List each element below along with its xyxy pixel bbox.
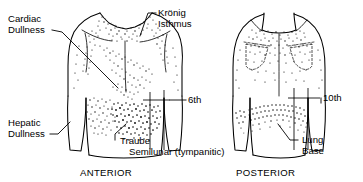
posterior-left-arm bbox=[233, 96, 250, 151]
label-lung-base-line-2: Base bbox=[302, 145, 324, 156]
leader-lines bbox=[50, 13, 321, 140]
leader-hepatic-dullness bbox=[50, 122, 70, 134]
label-lung-base-line-1: Lung bbox=[302, 134, 323, 145]
posterior-left-flank bbox=[250, 98, 253, 155]
anterior-torso-outline bbox=[100, 13, 152, 29]
label-lung-base: Lung Base bbox=[302, 134, 326, 156]
panel-captions: ANTERIOR POSTERIOR bbox=[80, 167, 295, 178]
caption-anterior: ANTERIOR bbox=[80, 167, 132, 178]
posterior-collar bbox=[262, 30, 296, 33]
anterior-right-axilla-fold bbox=[165, 34, 167, 72]
anterior-left-flank bbox=[86, 98, 89, 155]
label-traube-line-1: Traube bbox=[120, 135, 150, 146]
anterior-left-arm bbox=[68, 96, 86, 151]
label-kronig-isthmus: Krönig Isthmus bbox=[158, 7, 192, 29]
posterior-left-scapula bbox=[246, 44, 268, 69]
label-kronig-isthmus-line-2: Isthmus bbox=[158, 18, 192, 29]
label-traube-line-2: Semilunar (tympanitic) bbox=[129, 146, 224, 157]
lung-base-zone-posterior bbox=[235, 104, 309, 133]
label-cardiac-dullness-line-2: Dullness bbox=[8, 24, 45, 35]
leader-lung-base bbox=[278, 124, 298, 140]
posterior-neck-right bbox=[294, 13, 296, 30]
label-hepatic-dullness-line-1: Hepatic bbox=[8, 117, 41, 128]
figure-labels: Cardiac Dullness Krönig Isthmus 6th Hepa… bbox=[8, 7, 342, 157]
caption-posterior: POSTERIOR bbox=[236, 167, 295, 178]
anterior-right-arm bbox=[164, 96, 182, 151]
label-sixth-rib: 6th bbox=[188, 94, 201, 105]
posterior-right-shoulder bbox=[294, 14, 325, 96]
posterior-left-trapezius bbox=[251, 20, 262, 31]
hepatic-dullness-zone bbox=[86, 97, 116, 135]
percussion-topography-figure: Cardiac Dullness Krönig Isthmus 6th Hepa… bbox=[0, 0, 363, 182]
posterior-neck-left bbox=[262, 13, 264, 30]
posterior-right-scapula bbox=[290, 44, 312, 69]
label-kronig-isthmus-line-1: Krönig bbox=[158, 7, 186, 18]
anterior-percussion-stipple bbox=[73, 14, 178, 140]
diagram-canvas: Cardiac Dullness Krönig Isthmus 6th Hepa… bbox=[0, 0, 363, 182]
label-cardiac-dullness-line-1: Cardiac bbox=[8, 13, 41, 24]
label-hepatic-dullness: Hepatic Dullness bbox=[8, 117, 45, 139]
label-cardiac-dullness: Cardiac Dullness bbox=[8, 13, 45, 35]
label-tenth-rib: 10th bbox=[323, 92, 342, 103]
posterior-right-trapezius bbox=[296, 20, 307, 31]
label-hepatic-dullness-line-2: Dullness bbox=[8, 128, 45, 139]
anterior-sternum-line bbox=[125, 41, 126, 92]
label-traube-semilunar: Traube Semilunar (tympanitic) bbox=[120, 135, 224, 157]
posterior-waist bbox=[253, 155, 305, 158]
posterior-left-shoulder bbox=[233, 14, 264, 96]
